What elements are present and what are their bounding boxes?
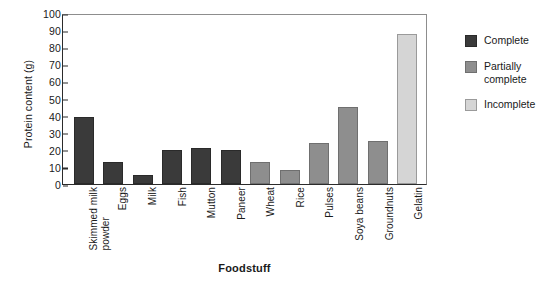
x-tick-label-slot: Gelatin — [398, 187, 418, 259]
x-tick-label: Paneer — [236, 187, 248, 220]
bar[interactable] — [368, 141, 388, 184]
bar[interactable] — [221, 150, 241, 184]
bar[interactable] — [162, 150, 182, 184]
legend-item[interactable]: Incomplete — [465, 98, 546, 111]
legend-item[interactable]: Complete — [465, 34, 546, 47]
x-tick-label: Milk — [147, 187, 159, 205]
x-tick-label: Wheat — [265, 187, 277, 216]
y-tick-label: 60 — [49, 76, 61, 89]
x-tick-label-slot: Groundnuts — [369, 187, 389, 259]
y-axis-title: Protein content (g) — [22, 24, 34, 184]
x-tick-label: Fish — [177, 187, 189, 206]
plot-area: 1009080706050403020100 — [62, 14, 427, 185]
bar-column[interactable] — [309, 15, 329, 184]
bar-column[interactable] — [74, 15, 94, 184]
y-tick-mark — [63, 185, 68, 186]
x-axis-title: Foodstuff — [62, 262, 427, 274]
chart-legend: CompletePartially completeIncomplete — [465, 34, 546, 124]
bar-column[interactable] — [338, 15, 358, 184]
bar[interactable] — [338, 107, 358, 184]
x-tick-label: Pulses — [324, 187, 336, 218]
legend-swatch-icon — [465, 35, 477, 47]
x-tick-label-slot: Mutton — [191, 187, 211, 259]
x-tick-label-slot: Paneer — [221, 187, 241, 259]
y-tick-label: 10 — [49, 161, 61, 174]
bar-column[interactable] — [103, 15, 123, 184]
bar-column[interactable] — [221, 15, 241, 184]
x-tick-label-slot: Eggs — [102, 187, 122, 259]
bar[interactable] — [397, 34, 417, 184]
legend-item-label: Complete — [484, 34, 529, 47]
x-tick-label-slot: Fish — [162, 187, 182, 259]
bar-column[interactable] — [280, 15, 300, 184]
protein-content-bar-chart: Protein content (g) 10090807060504030201… — [0, 0, 546, 284]
x-tick-label-slot: Pulses — [309, 187, 329, 259]
y-tick-label: 50 — [49, 93, 61, 106]
x-tick-label-slot: Soya beans — [339, 187, 359, 259]
legend-item-label: Incomplete — [484, 98, 535, 111]
x-tick-label: Mutton — [206, 187, 218, 218]
bar-column[interactable] — [368, 15, 388, 184]
x-tick-label: Soya beans — [354, 187, 366, 241]
x-tick-label: Gelatin — [413, 187, 425, 219]
y-tick-label: 30 — [49, 127, 61, 140]
y-tick-label: 20 — [49, 144, 61, 157]
bar-column[interactable] — [191, 15, 211, 184]
y-tick-label: 90 — [49, 25, 61, 38]
y-tick-label: 40 — [49, 110, 61, 123]
x-tick-label-slot: Wheat — [250, 187, 270, 259]
x-tick-label-slot: Rice — [280, 187, 300, 259]
bar[interactable] — [191, 148, 211, 184]
bar-column[interactable] — [397, 15, 417, 184]
bar[interactable] — [280, 170, 300, 184]
y-tick-label: 0 — [55, 179, 61, 192]
bar[interactable] — [309, 143, 329, 184]
y-tick-label: 80 — [49, 42, 61, 55]
bar-column[interactable] — [250, 15, 270, 184]
bar-column[interactable] — [162, 15, 182, 184]
legend-swatch-icon — [465, 61, 477, 73]
bar[interactable] — [133, 175, 153, 184]
x-tick-label: Rice — [295, 187, 307, 207]
x-tick-label: Groundnuts — [384, 187, 396, 240]
bar[interactable] — [103, 162, 123, 184]
y-tick-label: 70 — [49, 59, 61, 72]
legend-item[interactable]: Partially complete — [465, 60, 546, 85]
legend-swatch-icon — [465, 99, 477, 111]
x-tick-label: Eggs — [117, 187, 129, 210]
bar[interactable] — [250, 162, 270, 184]
bar-series-group — [63, 15, 426, 184]
y-tick-label: 100 — [43, 8, 61, 21]
bar[interactable] — [74, 117, 94, 184]
x-tick-label-slot: Milk — [132, 187, 152, 259]
x-axis-tick-labels: Skimmed milk powderEggsMilkFishMuttonPan… — [62, 187, 427, 259]
legend-item-label: Partially complete — [484, 60, 527, 85]
bar-column[interactable] — [133, 15, 153, 184]
x-tick-label-slot: Skimmed milk powder — [73, 187, 93, 259]
